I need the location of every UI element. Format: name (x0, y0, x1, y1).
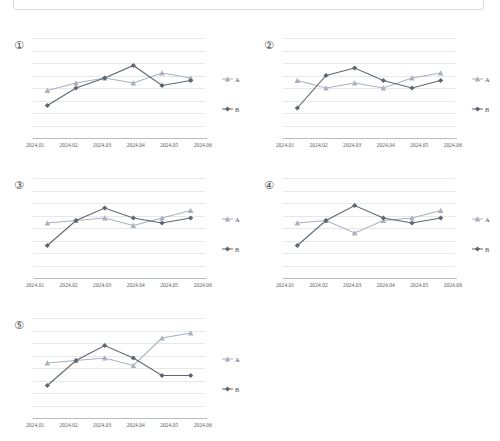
legend-item-B[interactable]: B (472, 244, 500, 254)
x-tick-label: 2024.02 (60, 142, 78, 148)
series-line-B (47, 66, 190, 106)
x-tick-label: 2024.03 (93, 422, 111, 428)
chart-legend: AB (472, 74, 500, 134)
x-axis-line (283, 138, 457, 139)
legend-label-B: B (485, 106, 489, 113)
chart-legend: AB (472, 214, 500, 274)
series-line-A (47, 333, 190, 366)
x-tick-label: 2024.03 (93, 142, 111, 148)
x-tick-label: 2024.04 (127, 142, 145, 148)
cropped-top-panel (13, 0, 484, 10)
plot-area (33, 318, 205, 418)
x-tick-label: 2024.05 (160, 282, 178, 288)
legend-label-B: B (485, 246, 489, 253)
x-tick-label: 2024.01 (276, 282, 294, 288)
data-point-A (438, 208, 444, 213)
x-tick-label: 2024.04 (377, 282, 395, 288)
data-point-B (409, 85, 414, 90)
legend-label-B: B (235, 246, 239, 253)
chart-index-label: ③ (14, 180, 24, 191)
small-multiples-chart-grid: ①2024.012024.022024.032024.042024.052024… (0, 16, 500, 437)
data-point-B (159, 220, 164, 225)
legend-item-B[interactable]: B (222, 244, 250, 254)
x-tick-label: 2024.04 (377, 142, 395, 148)
chart-cell-4: ④2024.012024.022024.032024.042024.052024… (250, 156, 500, 296)
data-point-B (159, 373, 164, 378)
x-tick-label: 2024.02 (310, 282, 328, 288)
x-tick-label: 2024.02 (60, 282, 78, 288)
series-line-B (47, 208, 190, 246)
series-line-B (297, 68, 440, 108)
plot-area (283, 178, 455, 278)
x-axis-line (33, 138, 207, 139)
data-point-B (438, 215, 443, 220)
series-line-A (47, 73, 190, 91)
x-axis-labels: 2024.012024.022024.032024.042024.052024.… (26, 142, 212, 148)
legend-item-B[interactable]: B (222, 104, 250, 114)
x-tick-label: 2024.06 (444, 142, 462, 148)
x-tick-label: 2024.01 (26, 282, 44, 288)
legend-label-A: A (485, 76, 490, 83)
legend-item-A[interactable]: A (222, 354, 250, 364)
x-axis-labels: 2024.012024.022024.032024.042024.052024.… (276, 282, 462, 288)
x-tick-label: 2024.06 (194, 142, 212, 148)
x-tick-label: 2024.01 (26, 142, 44, 148)
data-point-B (73, 85, 78, 90)
chart-legend: AB (222, 74, 250, 134)
legend-item-A[interactable]: A (472, 214, 500, 224)
data-point-A (352, 230, 358, 235)
series-canvas (33, 318, 205, 418)
chart-cell-1: ①2024.012024.022024.032024.042024.052024… (0, 16, 250, 156)
data-point-A (188, 208, 194, 213)
chart-legend: AB (222, 214, 250, 274)
legend-marker-diamond-icon (222, 244, 233, 254)
x-tick-label: 2024.01 (26, 422, 44, 428)
plot-area (283, 38, 455, 138)
data-point-A (295, 78, 301, 83)
x-tick-label: 2024.06 (444, 282, 462, 288)
chart-index-label: ⑤ (14, 320, 24, 331)
data-point-B (102, 343, 107, 348)
legend-label-A: A (485, 216, 490, 223)
data-point-B (352, 203, 357, 208)
legend-label-B: B (235, 386, 239, 393)
series-canvas (33, 38, 205, 138)
x-axis-labels: 2024.012024.022024.032024.042024.052024.… (26, 282, 212, 288)
legend-marker-diamond-icon (472, 104, 483, 114)
legend-label-A: A (235, 216, 240, 223)
x-tick-label: 2024.04 (127, 422, 145, 428)
x-axis-line (283, 278, 457, 279)
data-point-B (188, 215, 193, 220)
legend-marker-diamond-icon (472, 244, 483, 254)
chart-cell-3: ③2024.012024.022024.032024.042024.052024… (0, 156, 250, 296)
x-tick-label: 2024.05 (410, 142, 428, 148)
x-tick-label: 2024.06 (194, 282, 212, 288)
series-canvas (283, 178, 455, 278)
x-tick-label: 2024.02 (310, 142, 328, 148)
x-tick-label: 2024.02 (60, 422, 78, 428)
legend-marker-triangle-icon (222, 214, 233, 224)
legend-label-A: A (235, 76, 240, 83)
x-axis-labels: 2024.012024.022024.032024.042024.052024.… (26, 422, 212, 428)
x-axis-line (33, 278, 207, 279)
chart-index-label: ② (264, 40, 274, 51)
data-point-B (45, 103, 50, 108)
x-tick-label: 2024.05 (410, 282, 428, 288)
x-tick-label: 2024.05 (160, 422, 178, 428)
series-canvas (33, 178, 205, 278)
legend-item-B[interactable]: B (472, 104, 500, 114)
legend-label-A: A (235, 356, 240, 363)
chart-index-label: ① (14, 40, 24, 51)
plot-area (33, 38, 205, 138)
legend-marker-diamond-icon (222, 384, 233, 394)
plot-area (33, 178, 205, 278)
legend-item-A[interactable]: A (222, 214, 250, 224)
legend-item-A[interactable]: A (222, 74, 250, 84)
chart-legend: AB (222, 354, 250, 414)
data-point-B (102, 205, 107, 210)
data-point-B (438, 78, 443, 83)
data-point-B (381, 78, 386, 83)
legend-marker-triangle-icon (472, 74, 483, 84)
legend-item-B[interactable]: B (222, 384, 250, 394)
legend-item-A[interactable]: A (472, 74, 500, 84)
